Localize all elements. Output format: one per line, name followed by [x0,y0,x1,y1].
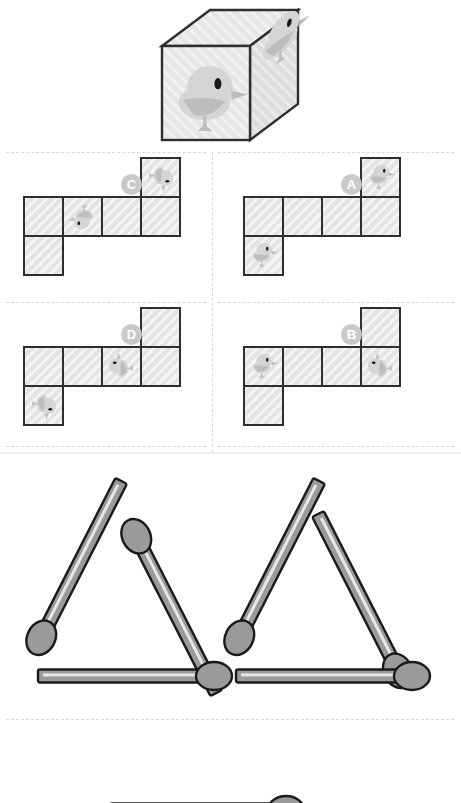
matchstick-figures [0,472,461,712]
cube-preview-section [0,0,461,150]
net-label-D: D [121,324,142,345]
bird-icon [245,237,282,274]
matchstick-left-c [38,662,232,690]
horizontal-dashed-divider-left [6,302,206,303]
net-D-cell-0 [140,307,181,348]
net-A-cell-2 [282,196,323,237]
horizontal-dashed-divider-bottom-left [6,446,206,447]
net-A-cell-3 [321,196,362,237]
net-C-cell-0 [140,157,181,198]
bird-icon [362,348,399,385]
matchstick-right-a [219,475,332,661]
vertical-dashed-divider [212,152,213,452]
matchstick-triangle-left[interactable] [21,475,232,700]
bird-icon [362,159,399,196]
net-B-cell-5 [243,385,284,426]
matchstick-left-a [21,475,134,661]
matchstick-dashed-divider [6,719,454,720]
horizontal-dashed-divider-top-right [218,152,454,153]
net-D-cell-3 [101,346,142,387]
net-C-cell-3 [101,196,142,237]
bird-icon [142,159,179,196]
matchstick-triangle-right[interactable] [219,475,430,694]
net-D-cell-2 [62,346,103,387]
net-B-cell-0 [360,307,401,348]
net-D-cell-4 [140,346,181,387]
bird-icon [25,387,62,424]
net-label-A: A [341,174,362,195]
net-A-cell-0 [360,157,401,198]
net-B-cell-1 [243,346,284,387]
net-B-cell-3 [321,346,362,387]
net-A-cell-5 [243,235,284,276]
net-C-cell-5 [23,235,64,276]
net-B-cell-4 [360,346,401,387]
matchstick-right-c [236,662,430,690]
horizontal-dashed-divider-bottom-right [218,446,454,447]
net-A-cell-1 [243,196,284,237]
net-label-B: B [341,324,362,345]
horizontal-dashed-divider-right [218,302,454,303]
matchstick-section [0,452,461,803]
horizontal-dashed-divider-top-left [6,152,206,153]
net-D-cell-1 [23,346,64,387]
matchstick-partial-bottom [0,788,461,803]
net-D-cell-5 [23,385,64,426]
bird-icon [64,198,101,235]
net-C-cell-2 [62,196,103,237]
puzzle-page: C A [0,0,461,803]
net-A-cell-4 [360,196,401,237]
net-C-cell-4 [140,196,181,237]
net-B-cell-2 [282,346,323,387]
bird-icon [103,348,140,385]
bird-icon [245,348,282,385]
net-label-C: C [121,174,142,195]
bird-cube [140,4,320,150]
net-C-cell-1 [23,196,64,237]
